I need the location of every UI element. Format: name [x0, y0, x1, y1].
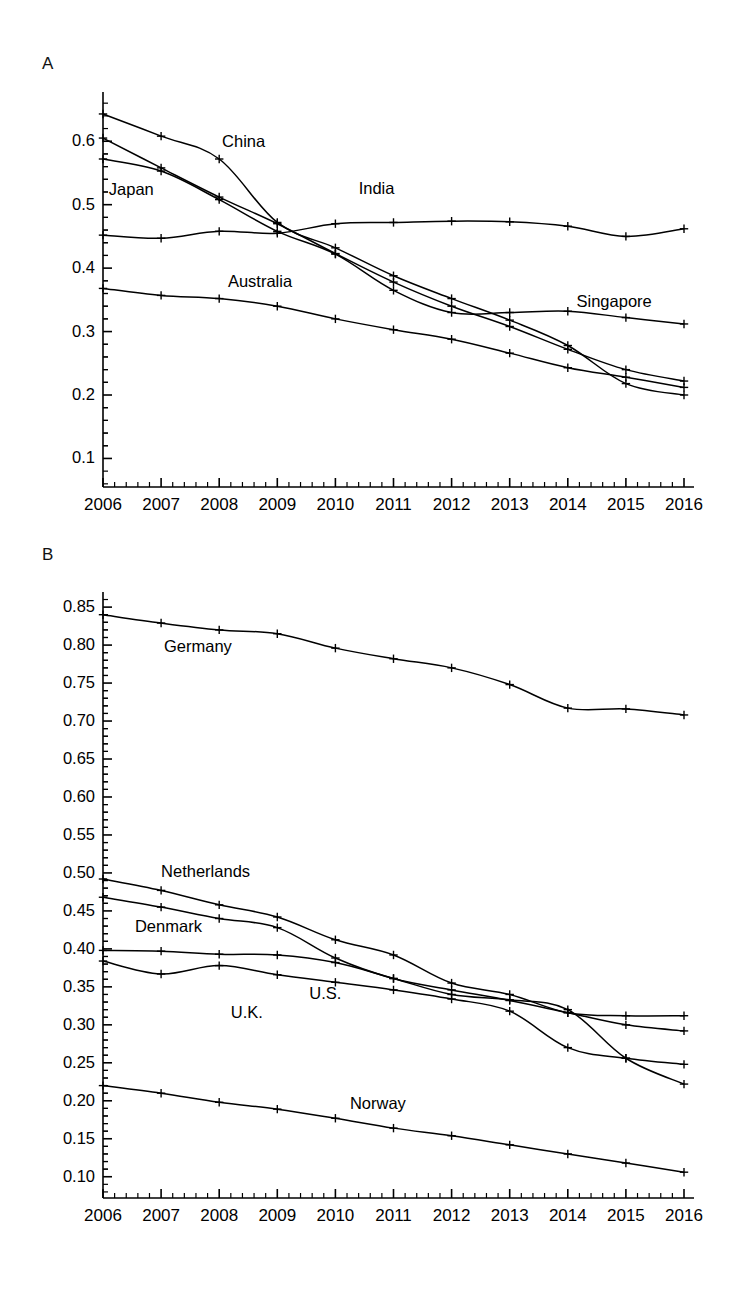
y-axis-tick-label: 0.4 [72, 258, 95, 277]
x-axis-tick-label: 2015 [596, 495, 656, 515]
data-point-marker [389, 325, 397, 333]
y-axis-tick-label: 0.35 [63, 977, 95, 996]
data-point-marker [506, 322, 514, 330]
series-china [99, 110, 688, 399]
data-point-marker [680, 383, 688, 391]
data-point-marker [506, 996, 514, 1004]
data-point-marker [331, 936, 339, 944]
y-axis-tick-label: 0.6 [72, 131, 95, 150]
series-line [103, 138, 684, 381]
series-u-k [99, 957, 688, 1069]
data-point-marker [273, 951, 281, 959]
data-point-marker [447, 217, 455, 225]
x-axis-tick-label: 2009 [247, 1206, 307, 1226]
x-axis-tick-label: 2014 [538, 1206, 598, 1226]
data-point-marker [564, 307, 572, 315]
x-axis-tick-label: 2006 [73, 495, 133, 515]
y-axis-tick-label: 0.75 [63, 673, 95, 692]
data-point-marker [331, 1114, 339, 1122]
data-point-marker [273, 227, 281, 235]
x-axis-tick-label: 2015 [596, 1206, 656, 1226]
data-point-marker [157, 970, 165, 978]
x-axis-tick-label: 2009 [247, 495, 307, 515]
data-point-marker [564, 222, 572, 230]
data-point-marker [215, 901, 223, 909]
data-point-marker [680, 1168, 688, 1176]
data-point-marker [273, 629, 281, 637]
data-point-marker [622, 1012, 630, 1020]
data-point-marker [447, 1132, 455, 1140]
panel-b-plot: 0.100.150.200.250.300.350.400.450.500.55… [0, 530, 748, 1300]
data-point-marker [99, 284, 107, 292]
data-point-marker [99, 946, 107, 954]
data-point-marker [564, 1150, 572, 1158]
data-point-marker [564, 364, 572, 372]
data-point-marker [157, 1089, 165, 1097]
series-japan [99, 134, 688, 385]
y-axis-tick-label: 0.1 [72, 448, 95, 467]
series-label-u-k: U.K. [231, 1003, 263, 1022]
data-point-marker [157, 291, 165, 299]
y-axis-tick-label: 0.85 [63, 597, 95, 616]
data-point-marker [680, 1012, 688, 1020]
data-point-marker [622, 705, 630, 713]
data-point-marker [389, 286, 397, 294]
data-point-marker [157, 903, 165, 911]
data-point-marker [157, 886, 165, 894]
data-point-marker [331, 315, 339, 323]
data-point-marker [622, 232, 630, 240]
series-label-india: India [359, 179, 395, 198]
data-point-marker [215, 626, 223, 634]
data-point-marker [680, 711, 688, 719]
chart-canvas [0, 0, 748, 530]
data-point-marker [447, 995, 455, 1003]
data-point-marker [622, 373, 630, 381]
data-point-marker [215, 961, 223, 969]
data-point-marker [564, 1043, 572, 1051]
data-point-marker [99, 110, 107, 118]
data-point-marker [99, 611, 107, 619]
series-line [103, 114, 684, 395]
panel-a: A 0.10.20.30.40.50.620062007200820092010… [0, 0, 748, 530]
data-point-marker [447, 308, 455, 316]
data-point-marker [389, 951, 397, 959]
figure-root: A 0.10.20.30.40.50.620062007200820092010… [0, 0, 748, 1300]
y-axis-tick-label: 0.20 [63, 1091, 95, 1110]
data-point-marker [99, 155, 107, 163]
data-point-marker [157, 619, 165, 627]
data-point-marker [564, 704, 572, 712]
series-label-u-s: U.S. [309, 984, 341, 1003]
series-label-china: China [222, 132, 265, 151]
data-point-marker [389, 986, 397, 994]
y-axis-tick-label: 0.50 [63, 863, 95, 882]
y-axis-tick-label: 0.5 [72, 195, 95, 214]
data-point-marker [99, 1081, 107, 1089]
x-axis-tick-label: 2013 [480, 495, 540, 515]
x-axis-tick-label: 2016 [654, 495, 714, 515]
x-axis-tick-label: 2006 [73, 1206, 133, 1226]
x-axis-tick-label: 2013 [480, 1206, 540, 1226]
y-axis-tick-label: 0.15 [63, 1129, 95, 1148]
panel-a-plot: 0.10.20.30.40.50.62006200720082009201020… [0, 0, 748, 530]
data-point-marker [622, 313, 630, 321]
series-denmark [99, 893, 688, 1035]
x-axis-tick-label: 2012 [422, 1206, 482, 1226]
series-label-singapore: Singapore [577, 292, 652, 311]
x-axis-tick-label: 2008 [189, 495, 249, 515]
data-point-marker [157, 234, 165, 242]
y-axis-tick-label: 0.60 [63, 787, 95, 806]
x-axis-tick-label: 2014 [538, 495, 598, 515]
data-point-marker [680, 225, 688, 233]
data-point-marker [215, 1098, 223, 1106]
series-label-norway: Norway [350, 1094, 406, 1113]
data-point-marker [680, 320, 688, 328]
data-point-marker [273, 302, 281, 310]
y-tick-group [103, 600, 112, 1192]
y-axis-tick-label: 0.80 [63, 635, 95, 654]
series-line [103, 615, 684, 715]
chart-canvas [0, 530, 748, 1300]
x-axis-tick-label: 2010 [305, 1206, 365, 1226]
series-line [103, 879, 684, 1016]
data-point-marker [680, 1027, 688, 1035]
data-point-marker [506, 680, 514, 688]
